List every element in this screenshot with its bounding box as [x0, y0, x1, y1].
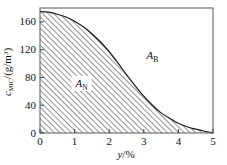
region-label-ab-subscript: B: [153, 55, 158, 64]
x-tick-label: 5: [210, 135, 216, 147]
x-tick-label: 4: [176, 135, 182, 147]
y-axis-title-rest: /(g/m: [1, 55, 14, 79]
y-tick-label: 120: [20, 43, 37, 55]
y-tick-label: 0: [31, 127, 37, 139]
x-tick-label: 0: [37, 135, 43, 147]
x-tick-label: 1: [72, 135, 78, 147]
x-tick-label: 3: [141, 135, 147, 147]
x-axis-tick-labels: 012345: [37, 135, 216, 147]
x-axis-title: y/%: [116, 148, 134, 160]
y-axis-title-subscript: MIC: [7, 79, 14, 91]
y-axis-title: cMIC/(g/m3): [1, 48, 14, 97]
region-label-an-subscript: N: [82, 83, 88, 92]
y-tick-label: 40: [25, 99, 37, 111]
chart-figure: 012345 04080120160 y/% cMIC/(g/m3) AN AB: [0, 0, 227, 165]
y-axis-title-close: ): [1, 48, 14, 52]
x-axis-title-unit: %: [125, 148, 134, 160]
y-tick-label: 160: [20, 15, 37, 27]
x-tick-label: 2: [106, 135, 112, 147]
y-axis-tick-labels: 04080120160: [20, 15, 37, 138]
y-tick-label: 80: [25, 71, 37, 83]
chart-plot-svg: 012345 04080120160 y/% cMIC/(g/m3) AN AB: [0, 0, 227, 165]
region-label-an: AN: [72, 76, 92, 92]
